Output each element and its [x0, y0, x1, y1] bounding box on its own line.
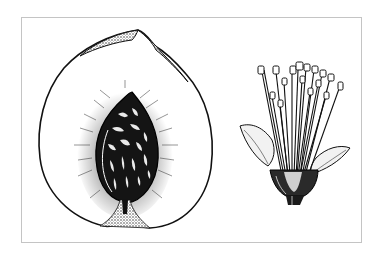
peach-flower-section: [240, 62, 350, 205]
botanical-illustration: [0, 0, 385, 264]
peach-fruit-section: [39, 30, 212, 228]
